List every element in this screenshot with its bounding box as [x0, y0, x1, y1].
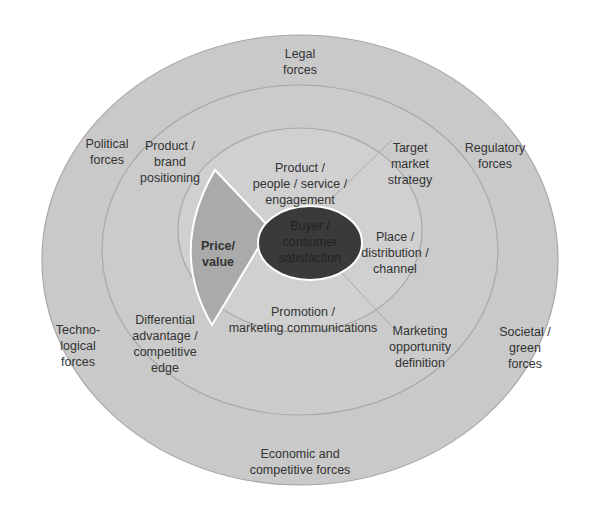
outer-label-societal: Societal / green forces: [490, 324, 560, 372]
outer-label-regulatory: Regulatory forces: [455, 140, 535, 172]
outer-label-technological: Techno- logical forces: [48, 322, 108, 370]
middle-label-target: Target market strategy: [375, 140, 445, 188]
inner-label-product: Product / people / service / engagement: [245, 160, 355, 208]
inner-label-place: Place / distribution / channel: [355, 229, 435, 277]
outer-label-legal: Legal forces: [260, 46, 340, 78]
marketing-mix-diagram: Buyer / consumer satisfaction Product / …: [0, 0, 600, 521]
middle-label-opportunity: Marketing opportunity definition: [375, 323, 465, 371]
outer-label-economic: Economic and competitive forces: [230, 446, 370, 478]
center-label: Buyer / consumer satisfaction: [262, 218, 358, 266]
outer-label-political: Political forces: [72, 136, 142, 168]
middle-label-differential: Differential advantage / competitive edg…: [120, 312, 210, 376]
inner-label-promotion: Promotion / marketing communications: [218, 304, 388, 336]
inner-label-price: Price/ value: [188, 238, 248, 270]
